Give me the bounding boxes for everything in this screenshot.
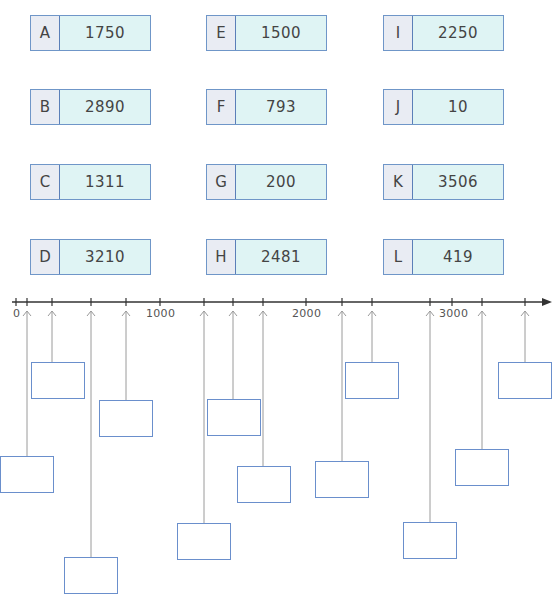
answer-box[interactable] [207, 399, 261, 436]
answer-box[interactable] [403, 522, 457, 559]
answer-box[interactable] [345, 362, 399, 399]
answer-box[interactable] [315, 461, 369, 498]
tick-label: 3000 [439, 307, 468, 320]
answer-box[interactable] [455, 449, 509, 486]
answer-box[interactable] [177, 523, 231, 560]
tick-label: 1000 [146, 307, 175, 320]
tick-label: 2000 [292, 307, 321, 320]
answer-box[interactable] [0, 456, 54, 493]
answer-box[interactable] [237, 466, 291, 503]
answer-box[interactable] [64, 557, 118, 594]
answer-box[interactable] [31, 362, 85, 399]
tick-label: 0 [13, 307, 20, 320]
axis-arrowhead-icon [542, 298, 552, 306]
answer-box[interactable] [498, 362, 552, 399]
answer-box[interactable] [99, 400, 153, 437]
